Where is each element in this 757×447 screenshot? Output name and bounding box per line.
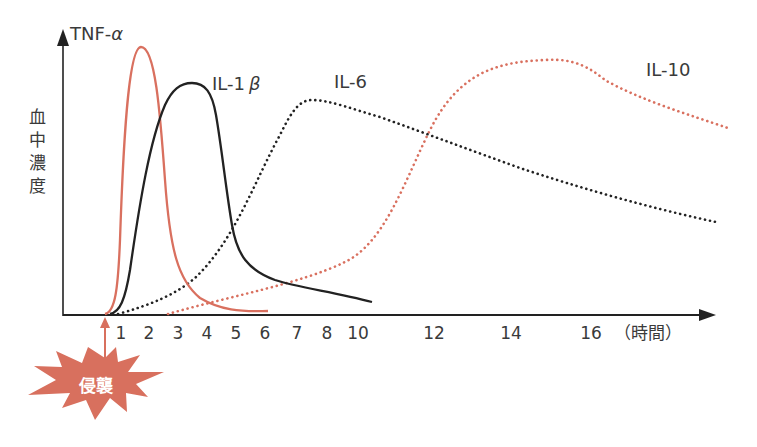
label-il1-beta: IL-1β xyxy=(212,73,260,94)
svg-text:血: 血 xyxy=(29,107,46,127)
svg-text:濃: 濃 xyxy=(29,153,46,173)
series-labels: TNF-α IL-1β IL-6 IL-10 xyxy=(69,23,690,94)
svg-text:1: 1 xyxy=(116,323,127,343)
label-tnf-alpha: TNF-α xyxy=(69,23,123,44)
svg-text:中: 中 xyxy=(29,130,46,150)
x-axis-arrow-icon xyxy=(699,309,716,321)
series-il10 xyxy=(168,60,728,314)
burst-label: 侵襲 xyxy=(78,376,114,396)
svg-text:5: 5 xyxy=(231,323,242,343)
x-unit-label: （時間） xyxy=(614,323,682,343)
cytokine-chart: 血 中 濃 度 1 2 3 4 5 6 7 8 10 12 14 16 （時間）… xyxy=(0,0,757,447)
svg-text:7: 7 xyxy=(292,323,303,343)
svg-text:度: 度 xyxy=(29,176,46,196)
svg-text:10: 10 xyxy=(347,323,369,343)
svg-text:6: 6 xyxy=(260,323,271,343)
svg-text:14: 14 xyxy=(500,323,522,343)
invasion-arrow-icon xyxy=(100,317,110,328)
svg-text:8: 8 xyxy=(322,323,333,343)
series-il6 xyxy=(118,100,716,314)
y-axis-arrow-icon xyxy=(57,29,69,46)
series-il1-beta xyxy=(110,83,372,314)
svg-text:4: 4 xyxy=(202,323,213,343)
axes xyxy=(57,29,716,321)
label-il10: IL-10 xyxy=(646,59,690,80)
svg-text:3: 3 xyxy=(173,323,184,343)
svg-text:16: 16 xyxy=(580,323,602,343)
y-axis-label: 血 中 濃 度 xyxy=(29,107,46,196)
label-il6: IL-6 xyxy=(334,71,367,92)
svg-text:2: 2 xyxy=(144,323,155,343)
svg-text:12: 12 xyxy=(423,323,445,343)
x-tick-labels: 1 2 3 4 5 6 7 8 10 12 14 16 （時間） xyxy=(116,323,682,343)
